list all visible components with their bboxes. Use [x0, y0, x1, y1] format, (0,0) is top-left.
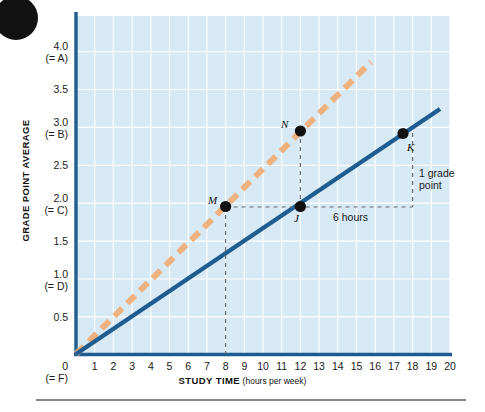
x-tick-14: 14 — [328, 360, 348, 372]
y-tick-sublabel: (= C) — [22, 205, 68, 217]
y-tick-value: 1.0 — [53, 268, 68, 280]
x-tick-2: 2 — [103, 360, 123, 372]
y-tick-1.5: 1.5 — [22, 236, 68, 248]
y-tick-sublabel: (= B) — [22, 129, 68, 141]
run-annotation: 6 hours — [333, 212, 368, 224]
x-tick-6: 6 — [178, 360, 198, 372]
rise-annotation: 1 grade point — [419, 168, 455, 191]
x-axis-title: STUDY TIME (hours per week) — [0, 375, 485, 386]
x-axis-title-main: STUDY TIME — [179, 375, 240, 386]
y-tick-value: 3.0 — [53, 116, 68, 128]
y-tick-value: 2.0 — [53, 192, 68, 204]
x-tick-1: 1 — [85, 360, 105, 372]
data-point-m[interactable] — [220, 201, 231, 212]
x-tick-10: 10 — [253, 360, 273, 372]
y-axis-ticks: 4.0 (= A) 3.5 3.0 (= B) 2.5 2.0 (= C) 1.… — [20, 0, 68, 412]
x-axis-title-unit: (hours per week) — [243, 376, 307, 386]
y-tick-3.0: 3.0 (= B) — [22, 117, 68, 140]
point-label-j: J — [294, 212, 299, 224]
y-tick-value: 4.0 — [53, 40, 68, 52]
chart-canvas — [0, 0, 485, 412]
rise-annotation-line2: point — [419, 180, 455, 192]
x-tick-18: 18 — [403, 360, 423, 372]
y-tick-0.5: 0.5 — [22, 312, 68, 324]
y-tick-value: 0.5 — [53, 311, 68, 323]
x-tick-13: 13 — [309, 360, 329, 372]
x-tick-5: 5 — [160, 360, 180, 372]
point-label-n: N — [281, 118, 288, 130]
y-tick-sublabel: (= A) — [22, 53, 68, 65]
y-tick-sublabel: (= D) — [22, 281, 68, 293]
point-label-m: M — [208, 194, 217, 206]
bottom-divider — [36, 399, 466, 401]
x-tick-12: 12 — [290, 360, 310, 372]
x-tick-3: 3 — [122, 360, 142, 372]
x-tick-4: 4 — [141, 360, 161, 372]
x-tick-value: 0 — [44, 360, 68, 372]
x-tick-16: 16 — [365, 360, 385, 372]
x-tick-20: 20 — [440, 360, 460, 372]
y-tick-2.0: 2.0 (= C) — [22, 193, 68, 216]
y-tick-value: 2.5 — [53, 159, 68, 171]
y-tick-4.0: 4.0 (= A) — [22, 41, 68, 64]
rise-annotation-line1: 1 grade — [419, 168, 455, 180]
x-tick-19: 19 — [421, 360, 441, 372]
y-tick-1.0: 1.0 (= D) — [22, 269, 68, 292]
x-tick-8: 8 — [216, 360, 236, 372]
point-label-k: K — [407, 141, 414, 153]
x-tick-7: 7 — [197, 360, 217, 372]
x-tick-15: 15 — [347, 360, 367, 372]
x-tick-9: 9 — [234, 360, 254, 372]
data-point-j[interactable] — [295, 201, 306, 212]
y-tick-2.5: 2.5 — [22, 160, 68, 172]
figure-panel: GRADE POINT AVERAGE 4.0 (= A) 3.5 3.0 (=… — [0, 0, 485, 412]
y-tick-value: 1.5 — [53, 235, 68, 247]
x-tick-11: 11 — [272, 360, 292, 372]
x-tick-17: 17 — [384, 360, 404, 372]
y-tick-3.5: 3.5 — [22, 84, 68, 96]
y-tick-value: 3.5 — [53, 83, 68, 95]
data-point-k[interactable] — [397, 128, 408, 139]
data-point-n[interactable] — [295, 125, 306, 136]
